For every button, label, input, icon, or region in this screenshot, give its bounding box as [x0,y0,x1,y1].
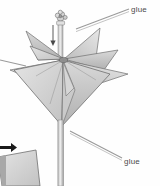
leader-line-bottom [70,131,122,160]
leader-line-top [76,9,129,32]
folded-paper-star [10,28,128,126]
glue-label-top: glue [131,5,147,14]
glue-label-bottom: glue [124,157,140,166]
wooden-stick-tip [58,120,63,186]
bead-flower-ornament [55,10,67,25]
illustration-canvas: glue glue e [0,0,160,186]
adjacent-figure-fragment [0,150,40,186]
black-pointer-arrow [0,143,17,152]
slide-down-arrow [50,25,55,46]
leader-line-left [0,60,26,66]
